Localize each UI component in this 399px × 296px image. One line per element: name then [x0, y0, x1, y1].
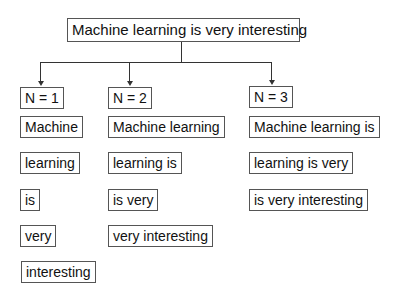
branch-line-n3: [271, 62, 272, 81]
ngram-box: learning is: [108, 152, 182, 174]
ngram-box: Machine learning is: [249, 116, 380, 138]
root-connector-vertical: [181, 42, 182, 62]
ngram-box: learning: [20, 152, 80, 174]
arrow-down-icon: [127, 81, 133, 86]
header-n3: N = 3: [249, 86, 293, 108]
ngram-box: is very: [108, 189, 158, 211]
ngram-box: learning is very: [249, 152, 353, 174]
arrow-down-icon: [38, 81, 44, 86]
branch-line-n1: [40, 62, 41, 82]
ngram-box: Machine learning: [108, 116, 225, 138]
ngram-box: is: [20, 189, 40, 211]
ngram-box: very interesting: [108, 225, 213, 247]
ngram-box: Machine: [20, 116, 83, 138]
header-n2: N = 2: [108, 87, 152, 109]
branch-line-n2: [129, 62, 130, 82]
ngram-box: very: [20, 225, 56, 247]
branch-connector-horizontal: [40, 62, 272, 63]
root-sentence-box: Machine learning is very interesting: [67, 18, 300, 42]
ngram-box: interesting: [21, 261, 96, 283]
header-n1: N = 1: [20, 87, 64, 109]
ngram-box: is very interesting: [249, 189, 368, 211]
arrow-down-icon: [269, 80, 275, 85]
